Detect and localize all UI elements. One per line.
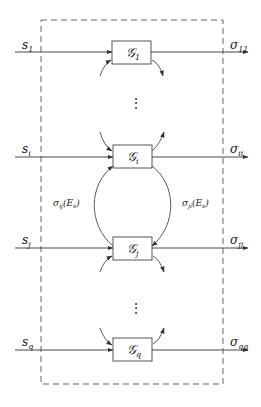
coupling-label-ji: σji(Es) (182, 198, 209, 210)
coupling-label-ij: σij(Es) (53, 198, 80, 210)
output-label: σjj (230, 233, 244, 249)
interconnection-diagram: 𝒢1 s1 σ11 ⋮ 𝒢i si σii σij(Es) σji(Es) 𝒢j… (0, 0, 261, 407)
input-label: si (22, 142, 31, 158)
block-gi: 𝒢i si σii (15, 142, 248, 168)
block-gj: 𝒢j sj σjj (15, 233, 248, 272)
block-gq: 𝒢q sq σqq (15, 335, 248, 361)
input-label: sq (22, 335, 33, 351)
input-label: s1 (22, 38, 33, 54)
ellipsis-2: ⋮ (129, 300, 143, 316)
input-label: sj (22, 233, 31, 249)
output-label: σqq (230, 335, 248, 351)
output-label: σii (230, 142, 244, 158)
ellipsis-1: ⋮ (129, 95, 143, 111)
block-g1: 𝒢1 s1 σ11 (15, 38, 248, 76)
coupling-ji (152, 166, 171, 246)
coupling-ij (94, 166, 113, 246)
output-label: σ11 (230, 38, 248, 54)
